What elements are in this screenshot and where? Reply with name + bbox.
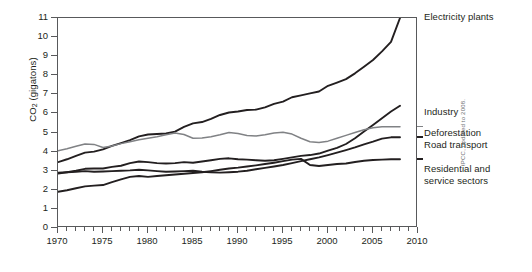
series-canvas xyxy=(58,18,418,228)
y-tick-label-5: 5 xyxy=(24,127,48,137)
y-tick-label-9: 9 xyxy=(24,50,48,60)
y-tick-label-1: 1 xyxy=(24,203,48,213)
residential-label-line2: service sectors xyxy=(424,175,488,187)
chart-container: CO2 (gigatons) 01234567891011 1970197519… xyxy=(0,0,532,272)
plot-area xyxy=(57,17,417,227)
deforestation-label: Deforestation xyxy=(424,127,481,139)
leader-line-deforestation xyxy=(417,126,423,128)
x-tick-label-2010: 2010 xyxy=(397,236,437,246)
y-tick-label-8: 8 xyxy=(24,69,48,79)
x-tick-label-1995: 1995 xyxy=(262,236,302,246)
series-line-deforestation xyxy=(58,127,400,151)
industry-label: Industry xyxy=(424,106,458,118)
x-tick-label-2005: 2005 xyxy=(352,236,392,246)
leader-line-road-transport xyxy=(417,136,423,138)
leader-line-residential xyxy=(417,158,423,160)
x-tick-label-1985: 1985 xyxy=(172,236,212,246)
road-transport-label: Road transport xyxy=(424,139,488,151)
y-tick-label-7: 7 xyxy=(24,88,48,98)
x-tick-label-1980: 1980 xyxy=(127,236,167,246)
y-tick-label-3: 3 xyxy=(24,165,48,175)
y-tick-label-6: 6 xyxy=(24,107,48,117)
x-tick-label-1970: 1970 xyxy=(37,236,77,246)
y-tick-label-4: 4 xyxy=(24,146,48,156)
y-tick-label-10: 10 xyxy=(24,31,48,41)
x-tick-label-2000: 2000 xyxy=(307,236,347,246)
y-tick-label-2: 2 xyxy=(24,184,48,194)
y-tick-label-11: 11 xyxy=(24,12,48,22)
source-credit: IPCC, updated to 2008. xyxy=(460,86,466,166)
residential-label-line1: Residential and xyxy=(424,163,490,175)
electricity-plants-label: Electricity plants xyxy=(424,11,494,23)
series-line-residential-and-service-sectors xyxy=(58,159,400,192)
x-tick-label-1990: 1990 xyxy=(217,236,257,246)
series-line-electricity-plants xyxy=(58,18,400,162)
y-tick-label-0: 0 xyxy=(24,222,48,232)
x-tick-label-1975: 1975 xyxy=(82,236,122,246)
